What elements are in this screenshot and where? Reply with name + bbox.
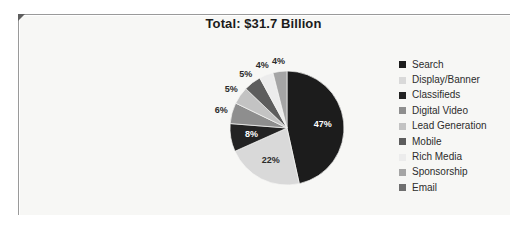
legend-item-label: Lead Generation — [412, 121, 487, 131]
legend-item-label: Email — [412, 183, 437, 193]
legend-swatch-icon — [399, 92, 406, 99]
legend-item-label: Digital Video — [412, 106, 468, 116]
legend-item-lead-generation[interactable]: Lead Generation — [399, 119, 524, 134]
chart-legend: SearchDisplay/BannerClassifiedsDigital V… — [399, 57, 524, 196]
legend-item-label: Classifieds — [412, 90, 460, 100]
legend-item-sponsorship[interactable]: Sponsorship — [399, 165, 524, 180]
legend-item-label: Search — [412, 60, 444, 70]
legend-item-email[interactable]: Email — [399, 180, 524, 195]
legend-item-label: Sponsorship — [412, 167, 468, 177]
pie-slice-label: 8% — [245, 129, 258, 139]
legend-item-display-banner[interactable]: Display/Banner — [399, 72, 524, 87]
legend-swatch-icon — [399, 154, 406, 161]
pie-slice-label: 4% — [256, 60, 269, 70]
legend-swatch-icon — [399, 77, 406, 84]
pie-slice-label: 47% — [314, 119, 332, 129]
legend-swatch-icon — [399, 138, 406, 145]
legend-swatch-icon — [399, 107, 406, 114]
legend-item-digital-video[interactable]: Digital Video — [399, 103, 524, 118]
pie-chart-panel: Total: $31.7 Billion 47%22%8%6%5%5%4%4% … — [0, 0, 527, 235]
legend-swatch-icon — [399, 123, 406, 130]
pie-slice-label: 5% — [239, 69, 252, 79]
chart-title: Total: $31.7 Billion — [0, 16, 527, 31]
legend-item-label: Rich Media — [412, 152, 462, 162]
pie-chart: 47%22%8%6%5%5%4%4% — [230, 71, 344, 185]
legend-swatch-icon — [399, 184, 406, 191]
legend-item-label: Mobile — [412, 137, 441, 147]
legend-item-mobile[interactable]: Mobile — [399, 134, 524, 149]
legend-item-rich-media[interactable]: Rich Media — [399, 149, 524, 164]
pie-slice-label: 4% — [272, 56, 285, 66]
legend-item-label: Display/Banner — [412, 75, 480, 85]
pie-slice-label: 22% — [262, 155, 280, 165]
pie-svg: 47%22%8%6%5%5%4%4% — [230, 71, 344, 185]
legend-item-search[interactable]: Search — [399, 57, 524, 72]
legend-item-classifieds[interactable]: Classifieds — [399, 88, 524, 103]
pie-slice-label: 6% — [215, 105, 228, 115]
legend-swatch-icon — [399, 169, 406, 176]
legend-swatch-icon — [399, 61, 406, 68]
pie-slice-label: 5% — [225, 84, 238, 94]
